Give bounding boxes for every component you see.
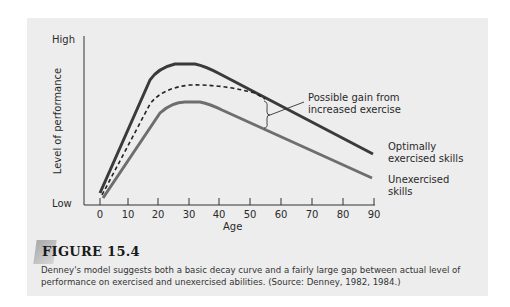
optimal-label-line2: exercised skills [388, 153, 463, 165]
x-axis-title: Age [223, 221, 242, 233]
figure-caption: Denney's model suggests both a basic dec… [41, 264, 481, 288]
gain-annotation-line1: Possible gain from [308, 92, 400, 104]
y-axis-title: Level of performance [52, 68, 63, 174]
figure-label: FIGURE 15.4 [42, 244, 140, 259]
optimal-label-line1: Optimally [388, 141, 436, 153]
x-tick-label: 20 [152, 209, 165, 220]
unexercised-label-line1: Unexercised [388, 174, 449, 186]
y-high-label: High [52, 34, 75, 46]
x-tick-label: 30 [183, 209, 196, 220]
gain-annotation-line2: increased exercise [308, 104, 401, 116]
optimal-curve [100, 64, 373, 193]
x-ticks [100, 198, 374, 205]
x-tick-label: 10 [122, 209, 135, 220]
unexercised-curve [103, 102, 372, 198]
x-tick-label: 40 [213, 209, 226, 220]
x-tick-label: 80 [337, 209, 350, 220]
x-tick-label: 70 [306, 209, 319, 220]
x-tick-label: 90 [368, 209, 381, 220]
unexercised-label-line2: skills [388, 186, 413, 198]
x-tick-label: 50 [244, 209, 257, 220]
x-tick-label: 60 [275, 209, 288, 220]
x-tick-label: 0 [97, 209, 103, 220]
gain-bracket [264, 101, 270, 128]
y-low-label: Low [52, 198, 72, 210]
